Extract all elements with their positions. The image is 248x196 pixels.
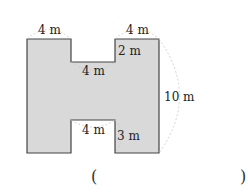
label-top-right-width: 4 m (126, 23, 149, 37)
label-bottom-notch-width: 4 m (82, 123, 105, 137)
label-bottom-notch-depth: 3 m (117, 129, 140, 143)
label-top-notch-width: 4 m (82, 64, 105, 78)
answer-blank[interactable] (100, 168, 236, 186)
answer-close-paren: ) (240, 168, 246, 186)
answer-open-paren: ( (91, 168, 97, 186)
label-top-left-width: 4 m (38, 23, 61, 37)
label-height: 10 m (164, 90, 194, 104)
label-top-notch-depth: 2 m (118, 44, 141, 58)
